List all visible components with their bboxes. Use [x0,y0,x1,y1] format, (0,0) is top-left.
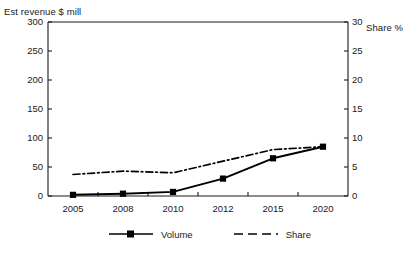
series-line-share [73,147,323,175]
x-tick-label-2008: 2008 [101,203,145,214]
y-tick-label-0: 0 [11,190,43,201]
y2-tick-label-15: 15 [352,103,384,114]
y-tick-label-200: 200 [11,74,43,85]
legend-label-volume: Volume [161,229,193,240]
data-series [70,144,326,198]
y2-tick-label-5: 5 [352,161,384,172]
chart-legend: Volume Share [0,228,419,240]
y-tick-label-100: 100 [11,132,43,143]
data-point-volume-2010 [170,189,176,195]
x-tick-label-2010: 2010 [151,203,195,214]
x-tick-label-2015: 2015 [251,203,295,214]
x-tick-label-2005: 2005 [51,203,95,214]
y-tick-label-50: 50 [11,161,43,172]
legend-item-volume: Volume [108,228,193,240]
legend-item-share: Share [233,228,311,240]
y2-tick-label-30: 30 [352,16,384,27]
axis-ticks [48,22,348,196]
plot-area [0,0,419,255]
data-point-volume-2008 [120,191,126,197]
y2-tick-label-20: 20 [352,74,384,85]
legend-swatch-volume [108,228,154,240]
legend-swatch-share [233,228,279,240]
data-point-volume-2015 [270,155,276,161]
data-point-volume-2005 [70,192,76,198]
data-point-volume-2012 [220,176,226,182]
series-line-volume [73,147,323,195]
y2-tick-label-0: 0 [352,190,384,201]
y2-tick-label-25: 25 [352,45,384,56]
y2-tick-label-10: 10 [352,132,384,143]
y-tick-label-150: 150 [11,103,43,114]
axes [48,22,348,196]
legend-label-share: Share [286,229,311,240]
y-tick-label-250: 250 [11,45,43,56]
x-tick-label-2020: 2020 [301,203,345,214]
chart-container: Est revenue $ mill Share % 0501001502002… [0,0,419,255]
y-tick-label-300: 300 [11,16,43,27]
x-tick-label-2012: 2012 [201,203,245,214]
